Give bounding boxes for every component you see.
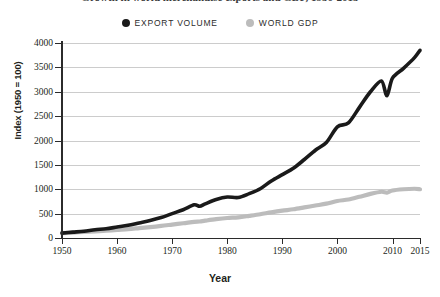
legend-item-world-gdp[interactable]: WORLD GDP [246, 18, 319, 28]
y-tick-label-1500: 1500 [3, 160, 53, 170]
y-tick-label-3000: 3000 [3, 87, 53, 97]
y-tick-1500 [55, 165, 61, 166]
x-tick-1970 [172, 238, 173, 244]
y-tick-4000 [55, 43, 61, 44]
chart-figure: Growth in world merchandise exports and … [0, 0, 440, 297]
y-tick-label-wrap-0: 0 [0, 233, 53, 243]
series-line-export-volume [62, 50, 420, 233]
x-tick-1960 [117, 238, 118, 244]
y-tick-1000 [55, 189, 61, 190]
y-axis-title: Index (1950 = 100) [12, 46, 23, 156]
legend-marker-export-volume-icon [122, 19, 130, 27]
y-tick-label-wrap-3000: 3000 [0, 87, 53, 97]
y-tick-3000 [55, 92, 61, 93]
x-axis-line [62, 238, 420, 239]
series-layer [62, 43, 420, 238]
x-tick-1980 [227, 238, 228, 244]
y-tick-500 [55, 214, 61, 215]
y-tick-label-1000: 1000 [3, 184, 53, 194]
chart-title: Growth in world merchandise exports and … [0, 0, 440, 3]
y-tick-label-wrap-500: 500 [0, 209, 53, 219]
x-tick-2010 [393, 238, 394, 244]
y-tick-label-4000: 4000 [3, 38, 53, 48]
x-tick-label-1960: 1960 [97, 246, 137, 256]
legend-item-export-volume[interactable]: EXPORT VOLUME [122, 18, 218, 28]
legend-label-world-gdp: WORLD GDP [259, 18, 319, 28]
plot-area [62, 43, 420, 238]
x-tick-label-2000: 2000 [317, 246, 357, 256]
y-tick-3500 [55, 67, 61, 68]
x-tick-1950 [62, 238, 63, 244]
y-tick-label-wrap-2500: 2500 [0, 111, 53, 121]
y-tick-label-wrap-3500: 3500 [0, 62, 53, 72]
y-tick-label-2000: 2000 [3, 136, 53, 146]
y-tick-label-0: 0 [3, 233, 53, 243]
y-axis-line [61, 41, 63, 239]
y-tick-2500 [55, 116, 61, 117]
y-tick-label-2500: 2500 [3, 111, 53, 121]
y-tick-label-wrap-4000: 4000 [0, 38, 53, 48]
y-tick-label-wrap-1000: 1000 [0, 184, 53, 194]
x-tick-1990 [282, 238, 283, 244]
x-tick-label-1980: 1980 [207, 246, 247, 256]
legend-label-export-volume: EXPORT VOLUME [135, 18, 218, 28]
y-tick-0 [55, 238, 61, 239]
x-tick-label-1970: 1970 [152, 246, 192, 256]
legend-marker-world-gdp-icon [246, 19, 254, 27]
y-tick-2000 [55, 141, 61, 142]
chart-legend: EXPORT VOLUME WORLD GDP [0, 16, 440, 30]
y-tick-label-500: 500 [3, 209, 53, 219]
x-tick-2015 [420, 238, 421, 244]
x-tick-label-2015: 2015 [400, 246, 440, 256]
x-axis-title: Year [0, 272, 440, 284]
y-tick-label-wrap-1500: 1500 [0, 160, 53, 170]
x-tick-label-1990: 1990 [262, 246, 302, 256]
y-tick-label-3500: 3500 [3, 62, 53, 72]
x-tick-2000 [337, 238, 338, 244]
x-tick-label-1950: 1950 [42, 246, 82, 256]
y-tick-label-wrap-2000: 2000 [0, 136, 53, 146]
